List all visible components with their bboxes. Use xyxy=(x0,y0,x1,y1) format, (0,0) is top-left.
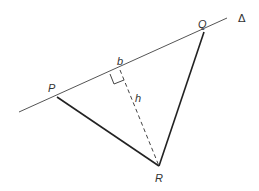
altitude-h xyxy=(120,70,159,166)
vertex-label-p: P xyxy=(48,82,56,94)
base-label-b: b xyxy=(117,55,123,67)
vertex-label-q: Q xyxy=(198,18,207,30)
side-pr xyxy=(57,97,159,166)
vertex-label-r: R xyxy=(155,172,163,184)
height-label-h: h xyxy=(135,92,141,104)
right-angle-marker xyxy=(110,74,124,84)
line-label-delta: Δ xyxy=(238,12,246,25)
side-qr xyxy=(159,32,204,166)
triangle-diagram: P Q R b h Δ xyxy=(0,0,259,191)
